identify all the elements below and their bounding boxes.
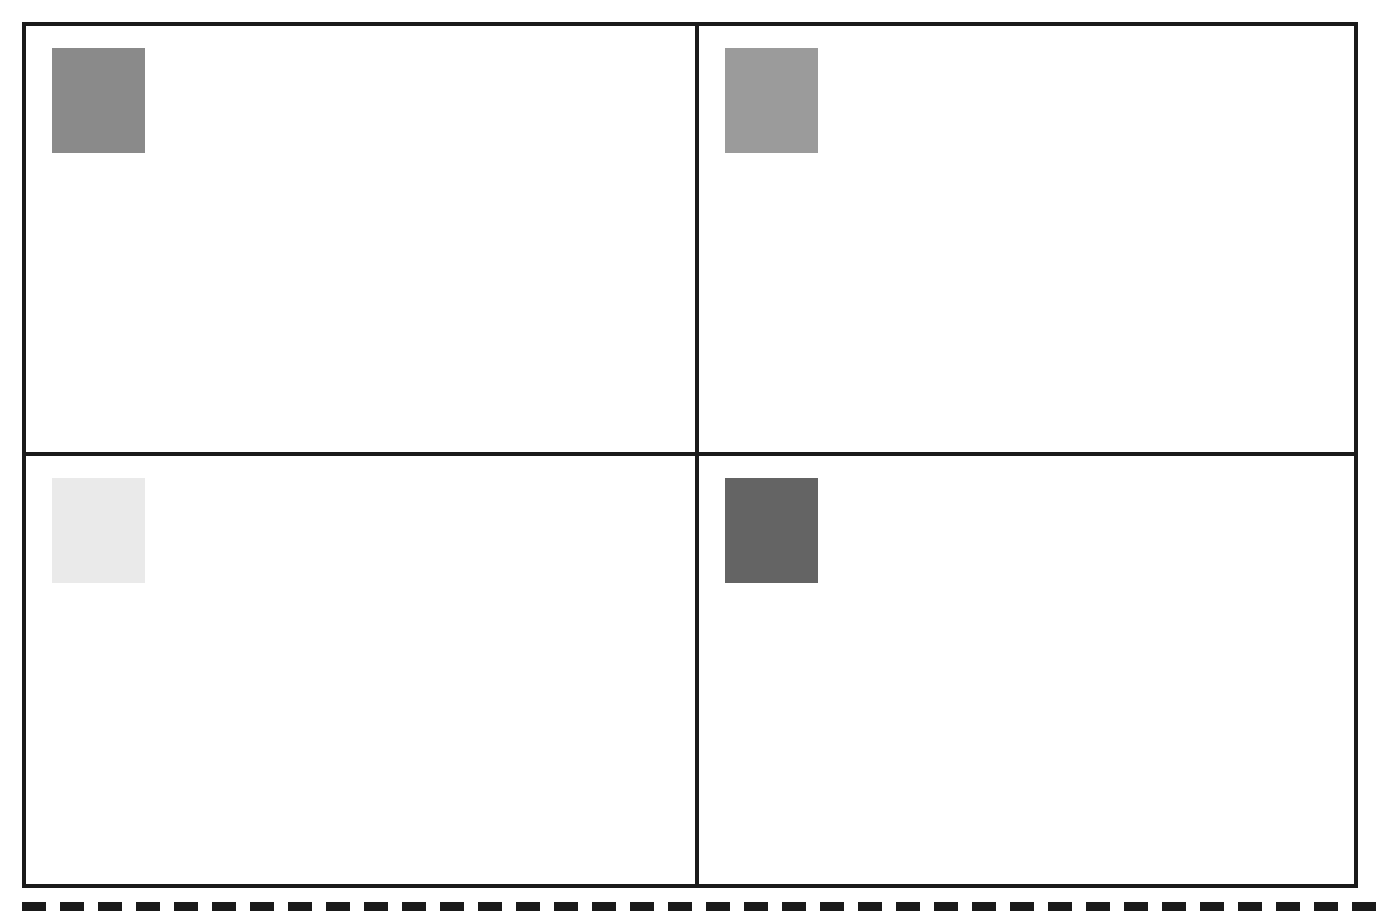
panel-bottom-left[interactable] [26, 456, 695, 884]
panel-top-left[interactable] [26, 26, 695, 452]
figure-canvas [0, 0, 1378, 921]
gray-swatch-very-light [52, 478, 145, 583]
panel-grid [22, 22, 1358, 888]
gray-swatch-dark [725, 478, 818, 583]
dashed-separator-rule [22, 902, 1378, 911]
panel-top-right[interactable] [699, 26, 1354, 452]
panel-bottom-right[interactable] [699, 456, 1354, 884]
gray-swatch-light-medium [725, 48, 818, 153]
gray-swatch-medium [52, 48, 145, 153]
